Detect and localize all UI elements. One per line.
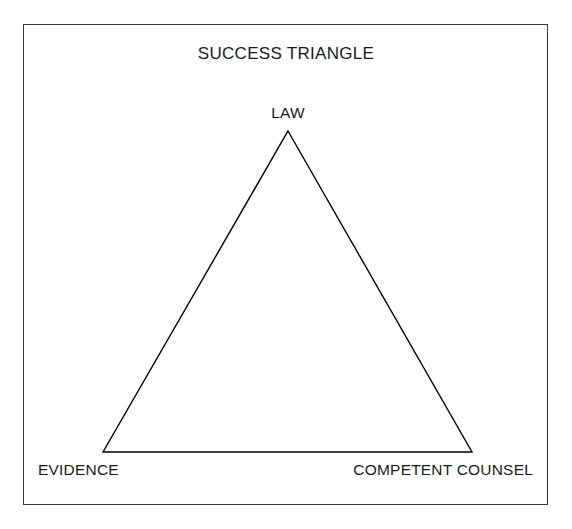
triangle-shape xyxy=(103,131,472,452)
vertex-label-competent-counsel: COMPETENT COUNSEL xyxy=(353,461,533,479)
success-triangle-diagram xyxy=(0,0,572,529)
page-title: SUCCESS TRIANGLE xyxy=(0,44,572,64)
vertex-label-evidence: EVIDENCE xyxy=(38,461,119,479)
vertex-label-law: LAW xyxy=(188,104,388,122)
